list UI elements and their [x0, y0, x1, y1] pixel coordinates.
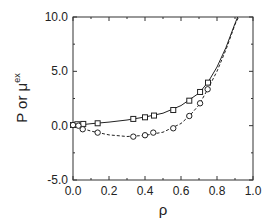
circle-marker	[205, 87, 210, 92]
circle-marker	[70, 122, 75, 127]
line-chart: 0.00.20.40.60.81.0 -5.00.05.010.0 ρ P or…	[0, 0, 274, 224]
x-tick-label: 0.6	[173, 184, 190, 198]
y-tick-label: 5.0	[51, 64, 68, 78]
square-marker	[171, 108, 176, 113]
square-marker	[198, 89, 203, 94]
circle-marker	[151, 130, 156, 135]
square-marker	[187, 98, 192, 103]
x-tick-label: 0.8	[209, 184, 226, 198]
square-marker	[95, 121, 100, 126]
y-axis-label: P or μex	[12, 73, 30, 123]
y-axis-label-main: P or μ	[13, 83, 30, 123]
y-tick-label: -5.0	[47, 173, 68, 187]
y-tick-label: 10.0	[45, 10, 69, 24]
plot-frame	[73, 17, 253, 180]
x-tick-labels: 0.00.20.40.60.81.0	[65, 184, 262, 198]
circle-marker	[131, 134, 136, 139]
circle-marker	[171, 126, 176, 131]
circle-marker	[187, 113, 192, 118]
circle-marker	[95, 130, 100, 135]
y-tick-label: 0.0	[51, 119, 68, 133]
x-axis-label: ρ	[159, 201, 168, 218]
square-marker	[131, 116, 136, 121]
square-marker	[143, 115, 148, 120]
x-tick-label: 1.0	[245, 184, 262, 198]
series-line	[73, 17, 238, 126]
data-series	[70, 17, 238, 139]
svg-text:P or μex: P or μex	[12, 73, 30, 123]
x-tick-label: 0.2	[101, 184, 118, 198]
series-line	[73, 17, 239, 137]
x-tick-label: 0.4	[137, 184, 154, 198]
y-tick-labels: -5.00.05.010.0	[45, 10, 69, 187]
y-axis-label-superscript: ex	[12, 73, 22, 83]
circle-marker	[80, 127, 85, 132]
series-pressure	[71, 17, 238, 128]
axis-ticks	[73, 17, 253, 180]
circle-marker	[142, 133, 147, 138]
circle-marker	[197, 101, 202, 106]
square-marker	[152, 113, 157, 118]
